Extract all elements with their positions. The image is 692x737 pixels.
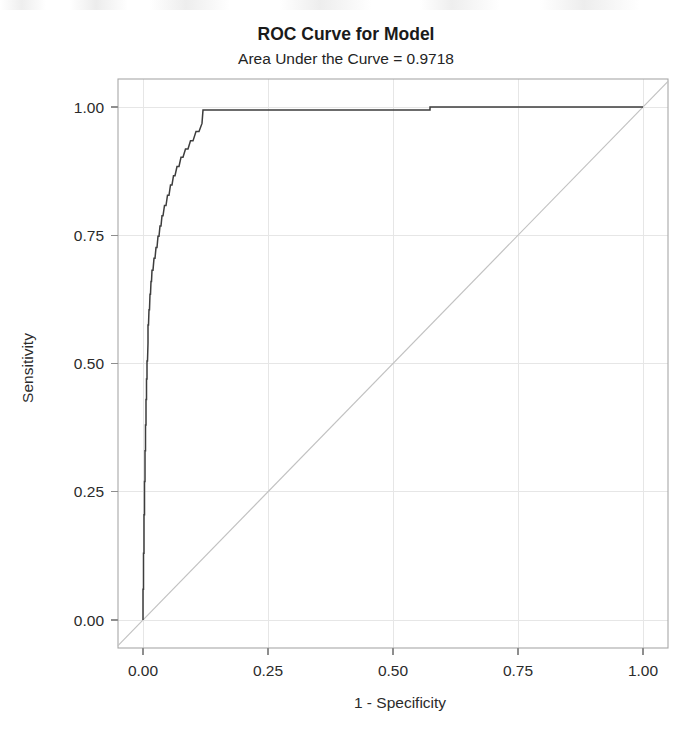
x-tick-label: 0.25 [253,662,283,679]
y-axis-tick-labels: 0.000.250.500.751.00 [74,99,105,629]
y-tick-label: 1.00 [74,99,105,116]
y-tick-label: 0.50 [74,355,105,372]
roc-curve-figure: ROC Curve for Model Area Under the Curve… [0,0,692,737]
x-tick-label: 0.75 [503,662,533,679]
page-title: ROC Curve for Model [258,24,435,44]
x-axis-title: 1 - Specificity [354,694,446,711]
y-axis-title: Sensitivity [19,333,36,403]
x-tick-label: 0.00 [128,662,159,679]
y-tick-label: 0.00 [74,612,105,629]
x-axis-tick-labels: 0.000.250.500.751.00 [128,662,659,679]
y-tick-label: 0.25 [74,483,104,500]
y-tick-label: 0.75 [74,227,104,244]
chart-subtitle-auc: Area Under the Curve = 0.9718 [238,50,454,67]
x-tick-label: 1.00 [628,662,659,679]
x-tick-label: 0.50 [378,662,409,679]
